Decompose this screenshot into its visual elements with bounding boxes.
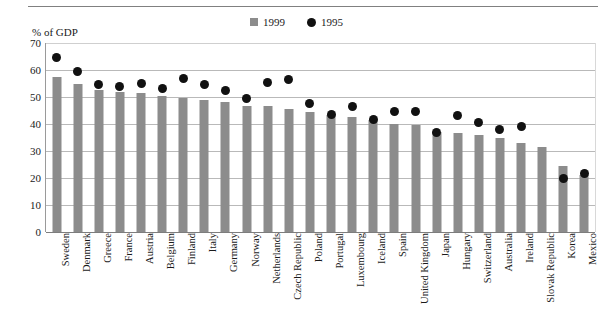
dot-1995 [411,107,420,116]
bar-1999 [390,124,399,232]
bar-1999 [305,112,314,232]
legend-circle-swatch-icon [307,18,316,27]
dot-1995 [115,82,124,91]
bar-1999 [73,84,82,233]
dot-1995 [52,53,61,62]
x-label-finland: Finland [186,233,197,265]
data-column [532,43,553,232]
bar-1999 [284,109,293,232]
data-column [173,43,194,232]
dot-1995 [242,94,251,103]
y-tick-label-60: 60 [30,65,41,76]
x-label-denmark: Denmark [81,233,92,272]
data-column [363,43,384,232]
dot-1995 [263,78,272,87]
bar-1999 [432,132,441,232]
x-axis-category-labels: SwedenDenmarkGreeceFranceAustriaBelgiumF… [45,233,596,325]
bar-1999 [137,93,146,232]
x-label-mexico: Mexico [587,233,598,265]
x-label-ireland: Ireland [524,233,535,263]
bar-1999 [369,120,378,232]
dot-1995 [94,80,103,89]
x-label-italy: Italy [207,233,218,252]
dot-1995 [158,84,167,93]
data-column [257,43,278,232]
data-column [109,43,130,232]
bar-1999 [200,100,209,232]
x-label-australia: Australia [503,233,514,272]
x-label-korea: Korea [566,233,577,259]
x-label-czech-republic: Czech Republic [292,233,303,300]
data-column [88,43,109,232]
bar-1999 [453,133,462,232]
bar-1999 [580,175,589,232]
dot-1995 [474,118,483,127]
dot-1995 [453,111,462,120]
data-column [489,43,510,232]
bar-1999 [52,77,61,232]
dot-1995 [221,86,230,95]
y-tick-label-30: 30 [30,146,41,157]
data-column [321,43,342,232]
bar-1999 [221,102,230,232]
data-column [447,43,468,232]
x-label-sweden: Sweden [60,233,71,266]
data-column [215,43,236,232]
dot-1995 [200,80,209,89]
bar-1999 [242,106,251,232]
data-column [130,43,151,232]
dot-1995 [73,67,82,76]
x-label-germany: Germany [228,233,239,272]
data-column [511,43,532,232]
data-column [384,43,405,232]
data-column [46,43,67,232]
bar-1999 [158,96,167,232]
data-column [405,43,426,232]
data-column [67,43,88,232]
y-tick-label-0: 0 [36,227,42,238]
x-label-hungary: Hungary [461,233,472,270]
data-column [299,43,320,232]
x-label-spain: Spain [397,233,408,257]
dot-1995 [348,102,357,111]
data-column [553,43,574,232]
data-column [574,43,595,232]
bar-1999 [517,143,526,232]
data-column [426,43,447,232]
legend-square-swatch-icon [250,18,258,26]
x-label-luxembourg: Luxembourg [355,233,366,287]
x-label-iceland: Iceland [376,233,387,264]
data-column [342,43,363,232]
bar-1999 [474,135,483,232]
x-label-united-kingdom: United Kingdom [419,233,430,304]
dot-1995 [284,75,293,84]
x-label-austria: Austria [144,233,155,264]
y-tick-label-70: 70 [30,38,41,49]
chart-figure: 1999 1995 % of GDP 010203040506070 Swede… [0,0,605,327]
x-label-slovak-republic: Slovak Republic [545,233,556,303]
bar-1999 [94,90,103,232]
data-column [468,43,489,232]
legend-label-1999: 1999 [263,16,285,28]
x-label-norway: Norway [250,233,261,267]
data-column [152,43,173,232]
y-tick-label-50: 50 [30,92,41,103]
x-label-switzerland: Switzerland [482,233,493,283]
dot-1995 [137,79,146,88]
dot-1995 [390,107,399,116]
y-tick-label-40: 40 [30,119,41,130]
data-series-layer [46,43,595,232]
dot-1995 [305,99,314,108]
x-label-poland: Poland [313,233,324,262]
dot-1995 [432,128,441,137]
data-column [236,43,257,232]
top-divider-rule [28,6,598,7]
dot-1995 [517,122,526,131]
legend-entry-1999: 1999 [250,16,285,28]
bar-1999 [495,138,504,233]
y-tick-label-20: 20 [30,173,41,184]
x-label-netherlands: Netherlands [271,233,282,284]
x-label-france: France [123,233,134,262]
x-label-portugal: Portugal [334,233,345,269]
bar-1999 [179,98,188,232]
